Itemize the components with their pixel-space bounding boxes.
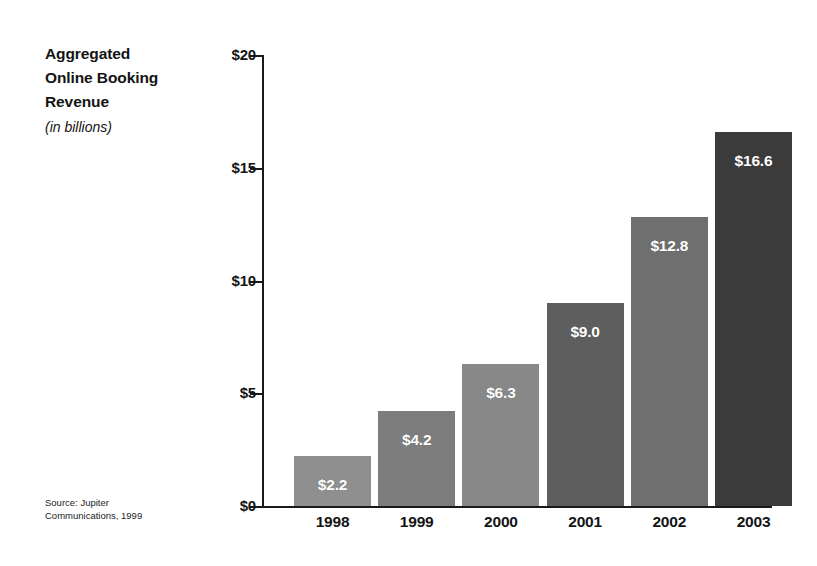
x-axis-label-1999: 1999 [378,513,455,531]
x-axis-label-2002: 2002 [631,513,708,531]
bar-value-label: $16.6 [715,152,792,170]
chart-plot-area: $0$5$10$15$20 $2.2$4.2$6.3$9.0$12.8$16.6… [262,55,772,508]
x-axis-label-1998: 1998 [294,513,371,531]
x-axis-label-2000: 2000 [462,513,539,531]
bar-value-label: $6.3 [462,384,539,402]
bar-value-label: $9.0 [547,323,624,341]
bar-value-label: $4.2 [378,431,455,449]
chart-title-block: Aggregated Online Booking Revenue (in bi… [45,42,225,138]
source-note-line-2: Communications, 1999 [45,510,220,523]
page-title-line-3: Revenue [45,90,225,114]
bar-2001[interactable]: $9.0 [547,303,624,506]
source-note-line-1: Source: Jupiter [45,497,220,510]
bar-2003[interactable]: $16.6 [715,132,792,506]
y-axis-tick-label: $10 [232,272,256,289]
x-axis-line [262,506,772,508]
bar-value-label: $2.2 [294,476,371,494]
page-title-line-2: Online Booking [45,66,225,90]
y-axis-tick-label: $20 [232,46,256,63]
chart-subtitle: (in billions) [45,116,225,138]
y-axis-tick-label: $0 [240,497,256,514]
y-axis-tick-label: $15 [232,159,256,176]
bar-2000[interactable]: $6.3 [462,364,539,506]
bar-2002[interactable]: $12.8 [631,217,708,506]
x-axis-label-2003: 2003 [715,513,792,531]
y-axis-tick-label: $5 [240,384,256,401]
page-title-line-1: Aggregated [45,42,225,66]
x-axis-label-2001: 2001 [547,513,624,531]
bar-value-label: $12.8 [631,237,708,255]
bar-1998[interactable]: $2.2 [294,456,371,506]
source-note: Source: Jupiter Communications, 1999 [45,497,220,522]
bar-1999[interactable]: $4.2 [378,411,455,506]
bars-layer: $2.2$4.2$6.3$9.0$12.8$16.6 [262,55,772,506]
x-axis-labels: 199819992000200120022003 [262,513,772,539]
